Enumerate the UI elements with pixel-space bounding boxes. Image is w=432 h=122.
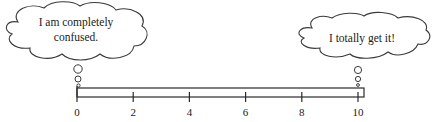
right-thought-bubble-small bbox=[357, 84, 360, 87]
scale-tick-label-10: 10 bbox=[353, 106, 365, 118]
scale-bar bbox=[77, 88, 364, 97]
right-cloud-line-1: I totally get it! bbox=[329, 32, 395, 45]
right-thought-bubble-large bbox=[354, 66, 361, 73]
scale-tick-labels: 0246810 bbox=[74, 106, 364, 118]
left-cloud-line-2: confused. bbox=[54, 31, 99, 43]
right-thought-cloud: I totally get it! bbox=[299, 12, 430, 86]
scale-tick-label-2: 2 bbox=[130, 106, 136, 118]
scale-tick-label-8: 8 bbox=[299, 106, 305, 118]
scale-tick-label-4: 4 bbox=[187, 106, 193, 118]
left-thought-bubble-large bbox=[74, 65, 82, 73]
right-thought-bubble-medium bbox=[355, 76, 360, 81]
understanding-scale-diagram: I am completely confused. I totally get … bbox=[0, 0, 432, 122]
left-thought-cloud: I am completely confused. bbox=[6, 2, 147, 87]
left-cloud-line-1: I am completely bbox=[39, 16, 114, 29]
scale-tick-label-0: 0 bbox=[74, 106, 80, 118]
scale-tick-label-6: 6 bbox=[243, 106, 249, 118]
left-thought-bubble-medium bbox=[75, 76, 81, 82]
